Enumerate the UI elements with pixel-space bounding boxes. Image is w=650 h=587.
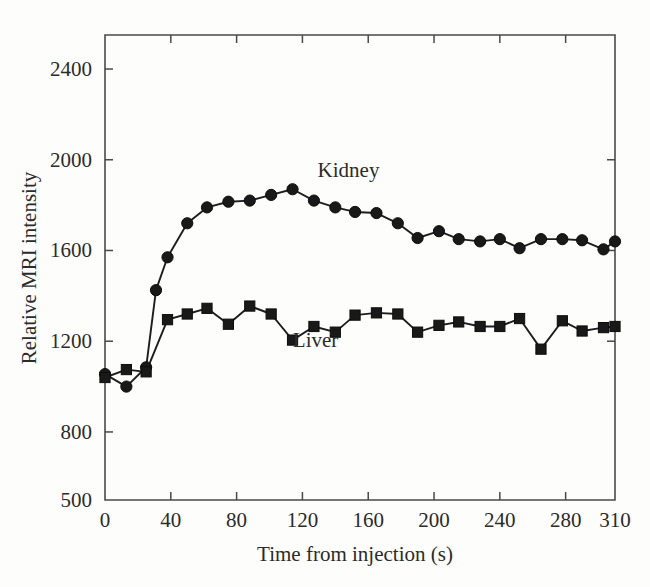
- x-tick-label: 240: [484, 508, 516, 532]
- mri-intensity-line-chart: 04080120160200240280310 5008001200160020…: [0, 0, 650, 587]
- data-point-kidney: [266, 189, 277, 200]
- data-point-liver: [454, 317, 464, 327]
- data-point-kidney: [201, 202, 212, 213]
- data-point-liver: [371, 308, 381, 318]
- y-tick-label: 1200: [50, 329, 92, 353]
- data-point-kidney: [598, 244, 609, 255]
- data-point-kidney: [392, 218, 403, 229]
- data-point-kidney: [223, 196, 234, 207]
- x-axis-tick-labels: 04080120160200240280310: [100, 508, 631, 532]
- data-point-liver: [202, 303, 212, 313]
- data-point-liver: [393, 309, 403, 319]
- data-point-liver: [162, 315, 172, 325]
- data-point-liver: [577, 326, 587, 336]
- x-tick-label: 120: [287, 508, 319, 532]
- data-point-kidney: [609, 236, 620, 247]
- data-point-kidney: [287, 184, 298, 195]
- data-point-kidney: [121, 381, 132, 392]
- data-point-kidney: [244, 195, 255, 206]
- y-tick-label: 1600: [50, 238, 92, 262]
- data-point-liver: [610, 321, 620, 331]
- axis-frame: [105, 35, 615, 500]
- data-point-kidney: [330, 202, 341, 213]
- data-point-liver: [266, 309, 276, 319]
- data-point-liver: [182, 309, 192, 319]
- y-tick-label: 2400: [50, 57, 92, 81]
- data-point-kidney: [475, 236, 486, 247]
- data-point-liver: [223, 319, 233, 329]
- data-point-kidney: [371, 207, 382, 218]
- data-point-liver: [557, 316, 567, 326]
- series-inline-labels: KidneyLiver: [293, 158, 380, 352]
- data-point-kidney: [308, 195, 319, 206]
- data-point-liver: [350, 310, 360, 320]
- data-point-liver: [412, 327, 422, 337]
- data-point-liver: [536, 344, 546, 354]
- x-tick-label: 80: [226, 508, 247, 532]
- x-tick-label: 280: [550, 508, 582, 532]
- y-tick-label: 2000: [50, 148, 92, 172]
- x-tick-label: 0: [100, 508, 111, 532]
- data-point-kidney: [412, 232, 423, 243]
- data-marker-group: [99, 184, 620, 393]
- series-label-liver: Liver: [293, 328, 338, 352]
- x-tick-label: 160: [352, 508, 384, 532]
- data-point-kidney: [577, 235, 588, 246]
- data-point-kidney: [557, 234, 568, 245]
- data-point-liver: [514, 313, 524, 323]
- data-point-liver: [495, 321, 505, 331]
- data-point-kidney: [535, 234, 546, 245]
- y-axis-title: Relative MRI intensity: [17, 171, 41, 364]
- x-tick-label: 40: [160, 508, 181, 532]
- x-tick-label: 310: [599, 508, 631, 532]
- y-tick-label: 800: [61, 420, 93, 444]
- y-axis-tick-labels: 5008001200160020002400: [50, 57, 92, 512]
- series-line-kidney: [105, 189, 615, 386]
- y-tick-label: 500: [61, 488, 93, 512]
- data-point-kidney: [433, 226, 444, 237]
- data-point-kidney: [162, 252, 173, 263]
- y-axis-ticks: [105, 69, 615, 432]
- data-point-liver: [434, 320, 444, 330]
- data-point-liver: [245, 301, 255, 311]
- x-tick-label: 200: [418, 508, 450, 532]
- data-point-liver: [141, 367, 151, 377]
- data-point-liver: [100, 372, 110, 382]
- data-point-liver: [598, 323, 608, 333]
- data-point-kidney: [349, 206, 360, 217]
- data-point-kidney: [514, 243, 525, 254]
- data-point-liver: [475, 321, 485, 331]
- x-axis-title: Time from injection (s): [257, 542, 453, 566]
- data-point-kidney: [182, 218, 193, 229]
- series-label-kidney: Kidney: [318, 158, 380, 182]
- data-point-liver: [121, 364, 131, 374]
- x-axis-ticks: [171, 35, 566, 500]
- data-series-group: [105, 189, 615, 386]
- data-point-kidney: [453, 234, 464, 245]
- data-point-kidney: [494, 234, 505, 245]
- figure-container: 04080120160200240280310 5008001200160020…: [0, 0, 650, 587]
- data-point-kidney: [150, 285, 161, 296]
